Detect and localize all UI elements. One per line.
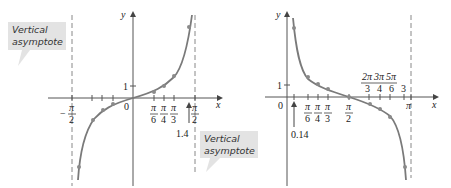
left-graph: Vertical asymptote: [8, 9, 258, 186]
y-tick-1: 1: [277, 80, 282, 91]
svg-text:5π: 5π: [386, 71, 397, 82]
svg-text:4: 4: [315, 113, 320, 124]
svg-text:4: 4: [377, 83, 382, 94]
svg-text:2: 2: [346, 113, 351, 124]
x-axis-label: x: [431, 99, 437, 110]
svg-text:4: 4: [161, 114, 166, 125]
svg-text:−: −: [60, 108, 66, 119]
marker-label-1.4: 1.4: [176, 128, 189, 139]
svg-text:2: 2: [69, 114, 74, 125]
tick-label-pi-over-6: π 6: [150, 102, 158, 125]
svg-text:π: π: [325, 101, 331, 112]
marker-label-0.14: 0.14: [291, 129, 309, 140]
right-graph: y x 1 0 π 6 π 4 π 3 π 2 π 2π 3: [265, 9, 437, 186]
y-tick-1: 1: [123, 81, 128, 92]
tick-label-pi-over-3: π 3: [324, 101, 332, 124]
svg-text:π: π: [171, 102, 177, 113]
svg-text:π: π: [69, 102, 75, 113]
tick-label-3: 3: [401, 83, 406, 94]
svg-text:π: π: [151, 102, 157, 113]
svg-text:2π: 2π: [362, 71, 373, 82]
svg-text:π: π: [346, 101, 352, 112]
tick-label-neg-pi-over-2: − π 2: [60, 102, 76, 125]
tick-label-5pi-over-6: 5π 6: [385, 71, 397, 94]
svg-text:2: 2: [192, 114, 197, 125]
svg-text:π: π: [315, 101, 321, 112]
origin-label: 0: [124, 101, 129, 112]
tick-label-2pi-over-3: 2π 3: [361, 71, 373, 94]
tick-label-pi-over-4: π 4: [160, 102, 168, 125]
callout-line1: Vertical: [204, 133, 240, 144]
svg-text:3: 3: [171, 114, 176, 125]
tick-label-pi-over-2: π 2: [345, 101, 353, 124]
tick-label-pi-over-4: π 4: [314, 101, 322, 124]
svg-text:3π: 3π: [373, 71, 385, 82]
svg-text:3: 3: [365, 83, 370, 94]
tick-label-pi-over-2: π 2: [191, 102, 199, 125]
svg-text:π: π: [161, 102, 167, 113]
y-axis-label: y: [120, 9, 126, 20]
svg-text:6: 6: [305, 113, 310, 124]
tick-label-pi-over-3: π 3: [170, 102, 178, 125]
callout-line1: Vertical: [12, 24, 48, 35]
x-axis-label: x: [215, 99, 221, 110]
y-axis-label: y: [275, 9, 281, 20]
callout-line2: asymptote: [204, 145, 255, 156]
origin-label: 0: [278, 100, 283, 111]
callout-vertical-asymptote-left: Vertical asymptote: [8, 22, 66, 66]
tick-label-3pi-over-4: 3π 4: [373, 71, 385, 94]
tick-label-pi-over-6: π 6: [304, 101, 312, 124]
callout-vertical-asymptote-right: Vertical asymptote: [200, 131, 258, 172]
svg-text:3: 3: [325, 113, 330, 124]
callout-line2: asymptote: [12, 36, 63, 47]
trig-graphs-figure: Vertical asymptote: [0, 0, 451, 188]
svg-text:π: π: [192, 102, 198, 113]
svg-text:6: 6: [389, 83, 394, 94]
svg-text:6: 6: [151, 114, 156, 125]
svg-text:π: π: [305, 101, 311, 112]
